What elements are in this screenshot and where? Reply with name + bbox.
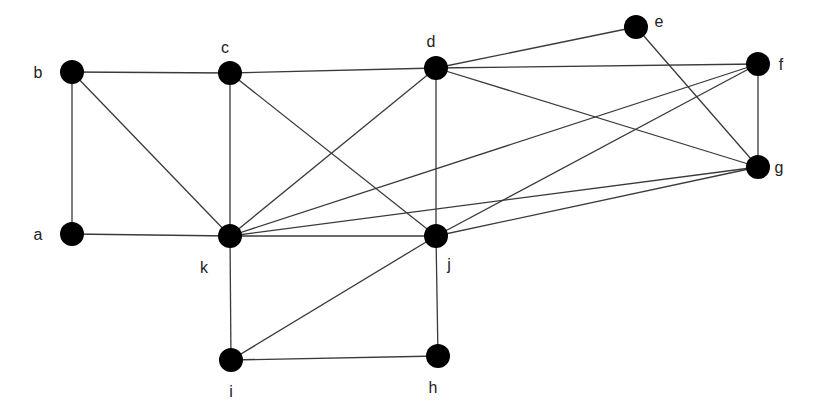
edge-layer (72, 27, 758, 360)
label-layer: abcdefghijk (34, 13, 784, 400)
node-b (60, 60, 84, 84)
node-f (746, 52, 770, 76)
node-h (426, 344, 450, 368)
edge-d-f (436, 64, 758, 68)
edge-d-g (436, 68, 758, 167)
node-j (424, 224, 448, 248)
edge-g-k (230, 167, 758, 236)
node-label-k: k (200, 259, 209, 276)
node-label-h: h (429, 379, 438, 396)
node-label-j: j (446, 256, 451, 273)
node-label-f: f (779, 56, 784, 73)
edge-b-k (72, 72, 230, 236)
edge-k-i (230, 236, 231, 360)
node-label-g: g (775, 159, 784, 176)
edge-f-k (230, 64, 758, 236)
edge-j-i (231, 236, 436, 360)
edge-a-k (72, 234, 230, 236)
node-i (219, 348, 243, 372)
node-label-a: a (34, 226, 43, 243)
edge-g-j (436, 167, 758, 236)
edge-f-j (436, 64, 758, 236)
node-label-b: b (34, 64, 43, 81)
node-e (624, 15, 648, 39)
node-label-e: e (655, 13, 664, 30)
node-label-i: i (229, 383, 233, 400)
edge-i-h (231, 356, 438, 360)
node-c (218, 61, 242, 85)
node-label-c: c (221, 39, 229, 56)
node-k (218, 224, 242, 248)
node-a (60, 222, 84, 246)
edge-b-c (72, 72, 230, 73)
node-label-d: d (427, 33, 436, 50)
graph-diagram: abcdefghijk (0, 0, 824, 420)
node-d (424, 56, 448, 80)
edge-c-d (230, 68, 436, 73)
node-g (746, 155, 770, 179)
edge-j-h (436, 236, 438, 356)
edge-d-e (436, 27, 636, 68)
